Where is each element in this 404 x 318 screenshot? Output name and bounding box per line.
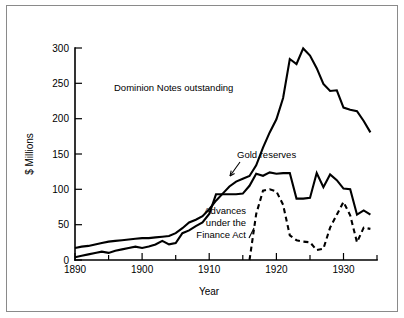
x-tick-label-1930: 1930	[332, 264, 355, 275]
y-tick-label-100: 100	[52, 184, 69, 195]
annotation-advances-label-line1: Advances	[204, 205, 246, 216]
y-tick-label-300: 300	[52, 43, 69, 54]
chart-figure: 0 50 100 150 200 250 300 1890 1900 1910 …	[0, 0, 404, 318]
y-tick-label-150: 150	[52, 149, 69, 160]
x-tick-label-1910: 1910	[198, 264, 221, 275]
line-chart-svg: 0 50 100 150 200 250 300 1890 1900 1910 …	[0, 0, 404, 318]
x-tick-label-1890: 1890	[64, 264, 87, 275]
annotation-gold-reserves-label: Gold reserves	[237, 149, 296, 160]
y-axis-title: $ Millions	[24, 133, 35, 175]
y-tick-label-50: 50	[58, 219, 70, 230]
x-tick-marks	[75, 253, 377, 260]
annotation-dominion-notes-label: Dominion Notes outstanding	[114, 82, 233, 93]
x-tick-labels: 1890 1900 1910 1920 1930	[64, 264, 355, 275]
gold-reserves-leader-arrow	[230, 162, 240, 176]
x-tick-label-1920: 1920	[265, 264, 288, 275]
y-tick-label-250: 250	[52, 78, 69, 89]
y-tick-label-200: 200	[52, 113, 69, 124]
x-tick-label-1900: 1900	[131, 264, 154, 275]
annotation-advances-label-line2: under the	[206, 217, 246, 228]
y-tick-labels: 0 50 100 150 200 250 300	[52, 43, 69, 266]
y-tick-marks	[75, 48, 82, 260]
x-axis-title: Year	[199, 286, 220, 297]
annotation-advances-label-line3: Finance Act	[196, 229, 246, 240]
